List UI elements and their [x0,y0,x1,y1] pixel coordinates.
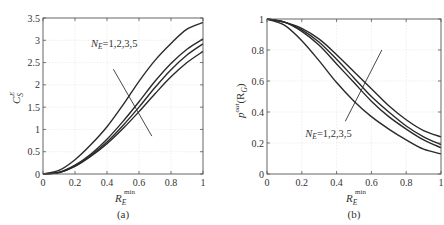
y-tick-label: 0.5 [28,146,41,157]
svg-text:E: E [8,91,16,97]
y-tick-label: 0.8 [252,45,265,56]
data-series [267,19,441,154]
y-axis-label: pout(RG) [233,83,249,119]
series-line-2 [267,19,441,148]
y-axis-label: CSE [8,91,25,104]
y-tick-label: 0.2 [252,138,265,149]
x-tick-label: 1 [439,177,444,188]
chart-panel-b: 00.20.40.60.8100.20.40.60.81REmin(b)NE=1… [222,0,444,225]
chart-a-svg: 00.20.40.60.8100.511.522.533.5REmin(a)NE… [0,0,222,225]
series-line-1 [267,19,441,154]
x-tick-label: 0 [41,177,46,188]
x-tick-label: 0.2 [296,177,309,188]
chart-panel-a: 00.20.40.60.8100.511.522.533.5REmin(a)NE… [0,0,222,225]
y-tick-label: 0 [259,169,264,180]
y-tick-label: 0.6 [252,76,265,87]
y-tick-label: 2 [35,79,40,90]
y-tick-label: 2.5 [28,57,41,68]
y-tick-label: 1 [259,14,264,25]
x-tick-label: 0.8 [165,177,178,188]
y-tick-label: 3 [35,35,40,46]
y-tick-label: 3.5 [28,13,41,24]
axis-ticks: 00.20.40.60.8100.20.40.60.81 [252,14,444,189]
x-tick-label: 0.4 [101,177,114,188]
x-tick-label: 0.2 [69,177,82,188]
x-tick-label: 0 [265,177,270,188]
series-line-4 [43,51,203,174]
svg-text:pout(RG): pout(RG) [233,83,249,119]
x-tick-label: 0.4 [330,177,343,188]
y-tick-label: 1.5 [28,102,41,113]
y-tick-label: 0.4 [252,107,265,118]
y-tick-label: 0 [35,169,40,180]
plot-frame [267,19,441,174]
panel-caption: (a) [117,208,130,221]
series-annotation: NE=1,2,3,5 [304,128,351,142]
x-tick-label: 0.6 [365,177,378,188]
panel-caption: (b) [348,208,361,221]
x-tick-label: 0.8 [400,177,413,188]
series-line-3 [43,44,203,174]
grid-lines [267,19,441,174]
x-axis-label-sup: min [124,188,135,196]
x-tick-label: 0.6 [133,177,146,188]
x-tick-label: 1 [201,177,206,188]
y-tick-label: 1 [35,124,40,135]
series-line-2 [43,39,203,174]
x-axis-label-sup: min [355,188,366,196]
chart-b-svg: 00.20.40.60.8100.20.40.60.81REmin(b)NE=1… [222,0,444,225]
series-annotation: NE=1,2,3,5 [90,38,137,52]
